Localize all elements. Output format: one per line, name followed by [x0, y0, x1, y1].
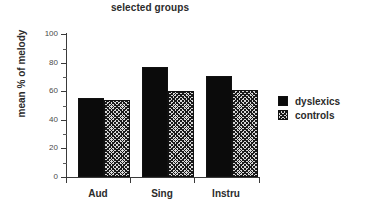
- plot-area: [67, 34, 259, 177]
- x-tick-label-sing: Sing: [132, 188, 192, 199]
- chart-legend: dyslexics controls: [278, 94, 340, 122]
- y-tick-label-60: 60: [32, 87, 58, 95]
- x-tick-2: [194, 178, 195, 183]
- bar-sing-dyslexics: [142, 67, 168, 177]
- bar-aud-dyslexics: [78, 98, 104, 177]
- legend-label-dyslexics: dyslexics: [295, 96, 340, 107]
- bar-sing-controls: [168, 91, 194, 177]
- x-axis-line: [66, 177, 260, 178]
- y-tick-label-100: 100: [32, 30, 58, 38]
- y-tick-label-0: 0: [32, 173, 58, 181]
- chart-title: selected groups: [0, 2, 300, 13]
- x-tick-1: [130, 178, 131, 183]
- solid-square-icon: [278, 96, 288, 106]
- y-tick-label-80: 80: [32, 59, 58, 67]
- bar-aud-controls: [104, 100, 130, 177]
- y-axis-title: mean % of melody: [16, 9, 27, 139]
- x-tick-right: [259, 178, 260, 183]
- legend-item-dyslexics: dyslexics: [278, 94, 340, 108]
- y-tick-label-20: 20: [32, 144, 58, 152]
- bar-instru-dyslexics: [206, 76, 232, 178]
- bar-instru-controls: [232, 90, 258, 177]
- x-tick-left: [66, 178, 67, 183]
- bar-chart-figure: selected groups mean % of melody 0 20 40…: [0, 0, 371, 214]
- x-tick-label-instru: Instru: [196, 188, 256, 199]
- x-tick-label-aud: Aud: [68, 188, 128, 199]
- legend-item-controls: controls: [278, 108, 340, 122]
- y-tick-label-40: 40: [32, 116, 58, 124]
- hatched-square-icon: [278, 110, 288, 120]
- legend-label-controls: controls: [295, 110, 334, 121]
